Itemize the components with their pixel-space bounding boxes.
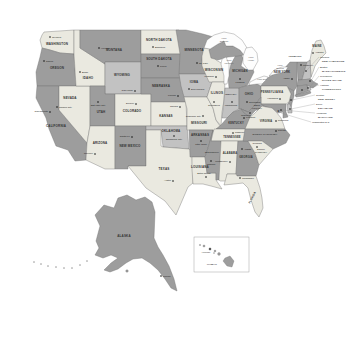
state-label-wv: WEST: [254, 104, 261, 106]
capital-dot-ga: [241, 148, 243, 150]
capital-label-ia: Des Moines: [191, 88, 205, 91]
aleutian-island: [40, 263, 41, 264]
hawaii-island: [203, 245, 205, 247]
lake-label-0: Superior: [220, 40, 229, 42]
capital-label-ky: Frankfort: [246, 116, 256, 118]
capital-dot-nc: [275, 130, 277, 132]
state-az: [86, 126, 115, 169]
capital-dot-tn: [232, 132, 234, 134]
capital-dot-mo: [202, 115, 204, 117]
state-label-de: DELAWARE: [318, 107, 333, 110]
capital-label-ok: Oklahoma City: [166, 138, 183, 141]
hawaii-island: [214, 250, 216, 252]
capital-label-tn: Nashville: [235, 131, 245, 133]
capital-label-nd: Bismarck: [155, 46, 166, 49]
aleutian-island: [71, 267, 72, 268]
capital-label-nj: Trenton: [316, 94, 325, 97]
state-label-id: IDAHO: [83, 76, 94, 80]
capital-label-nm: Santa Fe: [120, 135, 131, 138]
capital-dot-oh: [246, 101, 248, 103]
capital-dot-sd: [157, 65, 159, 67]
state-label-co: COLORADO: [123, 109, 142, 113]
capital-label-nv: Carson City: [59, 106, 73, 109]
hawaii-inset-box: [194, 237, 249, 272]
capital-dot-me: [312, 52, 314, 54]
capital-label-al: Montgomery: [215, 160, 229, 162]
capital-dot-id: [79, 71, 81, 73]
capital-label-tx: Austin: [164, 179, 172, 182]
capital-label-mn: St. Paul: [199, 62, 208, 65]
capital-dot-ak: [160, 275, 162, 277]
capital-label-ak: Juneau: [163, 275, 171, 277]
capital-dot-pa: [279, 98, 281, 100]
capital-label-ca: Sacramento: [35, 110, 49, 113]
capital-label-in: Indianapolis: [225, 104, 238, 106]
lake-label-3: Lake Erie: [257, 78, 267, 80]
capital-dot-md: [280, 109, 282, 111]
capital-dot-tx: [172, 180, 174, 182]
state-label-pa: PENNSYLVANIA: [261, 90, 283, 94]
state-label-wi: WISCONSIN: [205, 68, 224, 72]
capital-label-id: Boise: [82, 71, 89, 74]
state-label-nj: NEW JERSEY: [318, 98, 335, 101]
capital-label-ga: Atlanta: [244, 148, 252, 150]
capital-label-or: Salem: [46, 60, 53, 63]
state-label-sd: SOUTH DAKOTA: [146, 57, 172, 61]
state-label-ar: ARKANSAS: [191, 133, 209, 137]
dc-label: Washington D.C.: [312, 121, 330, 124]
state-label-mi: MICHIGAN: [232, 69, 247, 73]
capital-label-il: Springfield: [208, 104, 220, 107]
capital-dot-ny: [291, 78, 293, 80]
state-label-az: ARIZONA: [93, 141, 108, 145]
capital-label-nh: Concord: [320, 56, 330, 59]
capital-dot-ks: [179, 106, 181, 108]
capital-label-sd: Pierre: [160, 65, 167, 68]
capital-label-md: Annapolis: [316, 112, 327, 115]
state-label-nd: NORTH DAKOTA: [146, 38, 173, 42]
leader-line: [282, 110, 315, 113]
capital-dot-fl: [239, 177, 241, 179]
capital-dot-ne: [177, 95, 179, 97]
state-label-ca: CALIFORNIA: [46, 124, 67, 128]
state-label-ne: NEBRASKA: [152, 84, 171, 88]
aleutian-island: [126, 270, 129, 273]
lake-label-1: Michigan: [224, 62, 234, 64]
state-label-al: ALABAMA: [223, 151, 238, 155]
capital-label-mo: Jefferson City: [186, 115, 202, 118]
capital-label-ar: Little Rock: [195, 143, 207, 146]
state-label-oh: OHIO: [245, 92, 254, 96]
capital-label-ri: Providence: [320, 75, 333, 78]
state-label-nh: NEW HAMPSHIRE: [322, 60, 345, 63]
capital-label-va: Richmond: [278, 119, 289, 121]
hawaii-island: [199, 244, 200, 245]
state-label-ia: IOWA: [190, 80, 199, 84]
capital-dot-wy: [134, 90, 136, 92]
state-label-ak: ALASKA: [117, 234, 131, 238]
state-fl: [224, 174, 263, 217]
dc-star-marker: ★: [277, 109, 280, 113]
state-label-wy: WYOMING: [114, 73, 131, 77]
capital-label-wv: Charleston: [241, 114, 252, 116]
capital-dot-al: [229, 161, 231, 163]
state-label-nm: NEW MEXICO: [119, 144, 141, 148]
capital-label-sc: Columbia: [252, 142, 262, 144]
capital-dot-az: [94, 153, 96, 155]
capital-label-az: Phoenix: [84, 152, 94, 155]
state-label-wv: VIRGINIA: [252, 107, 263, 109]
capital-dot-nv: [56, 106, 58, 108]
state-label-hi: HAWAII: [207, 263, 217, 266]
capital-dot-va: [275, 120, 277, 122]
state-label-or: OREGON: [50, 66, 64, 70]
capital-dot-or: [43, 60, 45, 62]
capital-dot-nm: [131, 136, 133, 138]
aleutian-island: [63, 267, 64, 268]
capital-dot-de: [289, 108, 291, 110]
capital-dot-co: [135, 103, 137, 105]
capital-label-fl: Tallahassee: [242, 177, 255, 179]
lake-label-2: Huron: [248, 59, 255, 61]
capital-dot-mt: [98, 47, 100, 49]
state-label-mo: MISSOURI: [191, 121, 207, 125]
state-label-tx: TEXAS: [159, 167, 170, 171]
state-label-il: ILLINOIS: [211, 91, 224, 95]
state-label-ks: KANSAS: [159, 114, 173, 118]
